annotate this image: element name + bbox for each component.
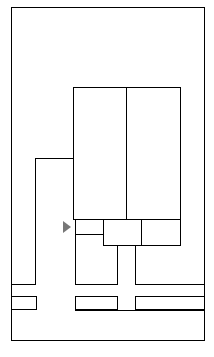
central-block-divider: [126, 87, 127, 220]
bottom-box-right: [135, 296, 205, 310]
left-corridor-top: [35, 158, 73, 159]
bottom-baseline: [75, 310, 205, 311]
play-marker-icon[interactable]: [63, 221, 71, 233]
left-corridor-wall: [35, 158, 36, 285]
middle-left-ledge: [75, 284, 118, 285]
middle-right-ledge: [135, 284, 205, 285]
lower-left-cell-mid: [75, 234, 104, 235]
middle-corridor-right: [135, 245, 136, 284]
lower-middle-cell: [103, 219, 142, 246]
middle-corridor-left: [117, 245, 118, 284]
left-corridor-bottom: [11, 284, 36, 285]
bottom-box-left: [11, 296, 37, 310]
lower-right-cell: [141, 219, 181, 246]
lower-left-cell-edge: [75, 219, 76, 284]
central-block: [73, 87, 181, 220]
bottom-box-middle: [75, 296, 118, 310]
